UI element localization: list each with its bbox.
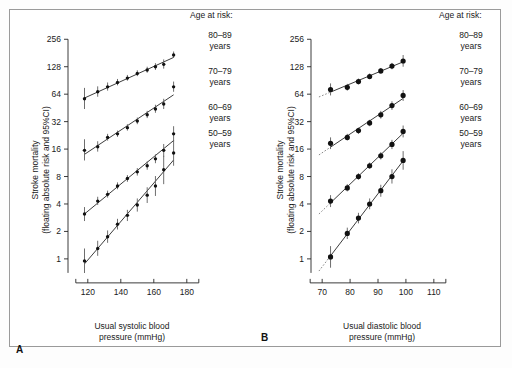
data-point (401, 93, 406, 98)
data-point (389, 64, 394, 69)
panel-a-xlabel-line1: Usual systolic blood (94, 321, 169, 331)
data-point (146, 113, 149, 116)
svg-text:1: 1 (299, 254, 304, 264)
legend-unit: years (461, 139, 482, 149)
data-point (345, 231, 350, 236)
data-point (162, 102, 165, 105)
legend-unit: years (210, 41, 231, 51)
data-point (172, 151, 175, 154)
data-point (378, 153, 383, 158)
panel-b-legend-title: Age at risk: (439, 10, 482, 20)
legend-unit: years (210, 77, 231, 87)
svg-text:256: 256 (290, 34, 304, 44)
data-point (96, 90, 99, 93)
data-point (146, 164, 149, 167)
data-point (378, 68, 383, 73)
legend-range: 50–59 (208, 128, 232, 138)
data-point (345, 185, 350, 190)
data-point (162, 149, 165, 152)
panel-a-xlabel: Usual systolic blood pressure (mmHg) (72, 321, 192, 343)
data-point (126, 214, 129, 217)
figure-canvas: 1248163264128256120140160180 Stroke mort… (0, 0, 512, 368)
svg-text:120: 120 (81, 287, 95, 297)
svg-text:100: 100 (399, 287, 413, 297)
svg-text:70: 70 (317, 287, 327, 297)
data-point (162, 63, 165, 66)
svg-text:64: 64 (52, 89, 62, 99)
legend-range: 60–69 (208, 102, 232, 112)
data-point (328, 199, 333, 204)
data-point (146, 193, 149, 196)
legend-range: 80–89 (459, 30, 483, 40)
data-point (328, 141, 333, 146)
data-point (154, 157, 157, 160)
panel-a-label: A (16, 344, 23, 355)
panel-b-ylabel-line2: (floating absolute risk and 95%CI) (286, 106, 296, 234)
svg-text:8: 8 (299, 172, 304, 182)
data-point (367, 74, 372, 79)
svg-text:90: 90 (373, 287, 383, 297)
panel-b-xlabel-line2: pressure (mmHg) (349, 332, 415, 342)
data-point (367, 163, 372, 168)
legend-range: 70–79 (459, 66, 483, 76)
data-point (378, 112, 383, 117)
data-point (378, 188, 383, 193)
panel-a-xlabel-line2: pressure (mmHg) (99, 332, 165, 342)
data-point (116, 132, 119, 135)
svg-text:1: 1 (56, 254, 61, 264)
data-point (136, 72, 139, 75)
data-point (83, 97, 86, 100)
data-point (356, 174, 361, 179)
data-point (367, 120, 372, 125)
svg-text:180: 180 (180, 287, 194, 297)
data-point (136, 203, 139, 206)
svg-text:110: 110 (427, 287, 441, 297)
panel-a-legend-item-60-69: 60–69 years (198, 102, 242, 123)
legend-unit: years (210, 139, 231, 149)
data-point (96, 199, 99, 202)
data-point (172, 85, 175, 88)
data-point (136, 170, 139, 173)
data-point (389, 142, 394, 147)
panel-a-legend-item-70-79: 70–79 years (198, 66, 242, 87)
data-point (401, 158, 406, 163)
series-80-89 (83, 52, 176, 110)
panel-b-xlabel-line1: Usual diastolic blood (343, 321, 421, 331)
data-point (146, 68, 149, 71)
data-point (116, 223, 119, 226)
data-point (126, 177, 129, 180)
legend-range: 50–59 (459, 128, 483, 138)
legend-unit: years (461, 77, 482, 87)
data-point (356, 216, 361, 221)
panel-a-ylabel: Stroke mortality (floating absolute risk… (30, 70, 52, 270)
svg-text:4: 4 (299, 199, 304, 209)
data-point (83, 149, 86, 152)
data-point (401, 129, 406, 134)
panel-b-legend-item-50-59: 50–59 years (449, 128, 493, 149)
data-point (345, 135, 350, 140)
data-point (401, 58, 406, 63)
panel-b: 1248163264128256708090100110 Stroke mort… (249, 0, 512, 368)
series-50-59 (83, 140, 176, 273)
series-50-59 (319, 151, 406, 271)
panel-a-ylabel-line1: Stroke mortality (30, 140, 40, 199)
series-70-79 (83, 82, 176, 161)
data-point (345, 85, 350, 90)
panel-b-xlabel: Usual diastolic blood pressure (mmHg) (317, 321, 447, 343)
data-point (154, 184, 157, 187)
data-point (328, 254, 333, 259)
svg-text:256: 256 (47, 34, 61, 44)
svg-text:160: 160 (147, 287, 161, 297)
data-point (83, 212, 86, 215)
panel-b-ylabel: Stroke mortality (floating absolute risk… (275, 70, 297, 270)
svg-text:8: 8 (56, 172, 61, 182)
series-60-69 (319, 126, 406, 214)
panel-a-legend-item-80-89: 80–89 years (198, 30, 242, 51)
series-80-89 (319, 55, 406, 97)
data-point (126, 126, 129, 129)
data-point (172, 132, 175, 135)
data-point (106, 85, 109, 88)
data-point (154, 65, 157, 68)
panel-b-legend-item-70-79: 70–79 years (449, 66, 493, 87)
svg-text:32: 32 (52, 117, 62, 127)
